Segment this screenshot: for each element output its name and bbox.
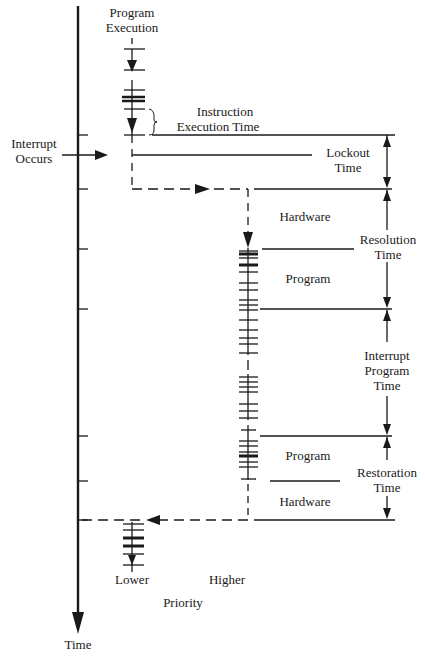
label-line: Restoration <box>350 465 424 480</box>
time-axis-arrow-icon <box>72 612 84 634</box>
resolution-time-label: Resolution Time <box>352 232 424 262</box>
higher-label: Higher <box>202 572 252 587</box>
lower-label: Lower <box>110 572 154 587</box>
time-axis-ticks <box>78 135 88 520</box>
label-line: Time <box>352 247 424 262</box>
label-line: Program <box>96 5 168 20</box>
label-line: Interrupt <box>354 348 420 363</box>
interrupt-occurs-label: Interrupt Occurs <box>4 136 64 166</box>
lower-priority-resume <box>123 522 144 572</box>
label-line: Interrupt <box>4 136 64 151</box>
label-line: Time <box>318 160 378 175</box>
label-line: Time <box>354 378 420 393</box>
label-line: Execution Time <box>158 119 278 134</box>
label-line: Instruction <box>158 104 278 119</box>
hardware-top-label: Hardware <box>270 209 340 224</box>
dimension-arrows <box>383 135 391 519</box>
program-bottom-label: Program <box>276 448 340 463</box>
interrupt-arrow-head-icon <box>95 150 108 160</box>
instruction-execution-time-label: Instruction Execution Time <box>158 104 278 134</box>
label-line: Execution <box>96 20 168 35</box>
time-label: Time <box>58 637 98 652</box>
restoration-time-label: Restoration Time <box>350 465 424 495</box>
higher-priority-execution <box>82 189 258 525</box>
label-line: Time <box>350 480 424 495</box>
program-execution-label: Program Execution <box>96 5 168 35</box>
label-line: Occurs <box>4 151 64 166</box>
interrupt-timing-diagram <box>0 0 425 657</box>
label-line: Resolution <box>352 232 424 247</box>
hardware-bottom-label: Hardware <box>270 494 340 509</box>
program-top-label: Program <box>276 271 340 286</box>
lockout-time-label: Lockout Time <box>318 145 378 175</box>
priority-label: Priority <box>155 595 211 610</box>
label-line: Program <box>354 363 420 378</box>
interrupt-program-time-label: Interrupt Program Time <box>354 348 420 393</box>
label-line: Lockout <box>318 145 378 160</box>
